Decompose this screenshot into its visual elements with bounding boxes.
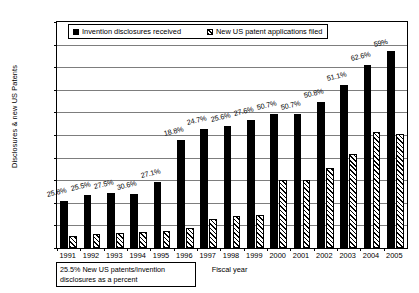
bar-group: 18.8%	[174, 22, 197, 248]
bar-invention-disclosures	[60, 201, 68, 248]
bar-invention-disclosures	[317, 102, 325, 248]
bar-invention-disclosures	[130, 194, 138, 248]
footnote-line-2: disclosures as a percent	[60, 275, 192, 285]
bar-group: 27.5%	[104, 22, 127, 248]
legend-item-disclosures: Invention disclosures received	[73, 27, 181, 36]
bar-group: 25.5%	[80, 22, 103, 248]
bar-group: 50.7%	[290, 22, 313, 248]
bar-patent-applications	[303, 180, 311, 248]
bar-invention-disclosures	[247, 120, 255, 248]
bar-invention-disclosures	[84, 195, 92, 248]
bar-group: 50.7%	[267, 22, 290, 248]
bar-patent-applications	[139, 232, 147, 248]
bar-patent-applications	[116, 233, 124, 248]
bar-series-container: 25.8%25.5%27.5%30.6%27.1%18.8%24.7%25.6%…	[57, 22, 407, 248]
chart-legend: Invention disclosures received New US pa…	[68, 24, 328, 39]
legend-swatch-solid-icon	[73, 29, 79, 35]
footnote-box: 25.5% New US patents/invention disclosur…	[56, 262, 196, 287]
bar-patent-applications	[396, 134, 404, 248]
bar-invention-disclosures	[154, 182, 162, 248]
plot-area: 0200040006000800010000120001400016000180…	[56, 21, 408, 249]
bar-group: 25.8%	[57, 22, 80, 248]
bar-percent-label: 25.8%	[46, 185, 67, 199]
bar-patent-applications	[93, 234, 101, 248]
bar-group: 25.6%	[220, 22, 243, 248]
bar-invention-disclosures	[200, 129, 208, 248]
bar-chart: Disclosures & new US Patents 02000400060…	[0, 0, 419, 293]
bar-invention-disclosures	[270, 114, 278, 248]
bar-invention-disclosures	[387, 51, 395, 248]
bar-group: 50.8%	[314, 22, 337, 248]
bar-patent-applications	[373, 132, 381, 248]
x-axis-tick-label: 2005	[374, 251, 414, 260]
bar-invention-disclosures	[340, 85, 348, 248]
bar-invention-disclosures	[364, 65, 372, 248]
legend-swatch-hatch-icon	[207, 29, 213, 35]
bar-group: 30.6%	[127, 22, 150, 248]
bar-patent-applications	[256, 215, 264, 248]
bar-group: 27.6%	[244, 22, 267, 248]
legend-label-patent-applications: New US patent applications filed	[216, 27, 322, 36]
bar-invention-disclosures	[177, 140, 185, 248]
bar-group: 62.6%	[360, 22, 383, 248]
footnote-line-1: 25.5% New US patents/invention	[60, 265, 192, 275]
bar-patent-applications	[209, 219, 217, 248]
bar-patent-applications	[163, 231, 171, 249]
bar-patent-applications	[279, 180, 287, 248]
legend-label-disclosures: Invention disclosures received	[82, 27, 181, 36]
bar-invention-disclosures	[224, 126, 232, 248]
y-axis-title: Disclosures & new US Patents	[10, 17, 19, 217]
bar-patent-applications	[69, 236, 77, 248]
bar-patent-applications	[233, 216, 241, 248]
bar-patent-applications	[349, 154, 357, 248]
legend-item-patent-applications: New US patent applications filed	[207, 27, 322, 36]
bar-patent-applications	[186, 228, 194, 248]
bar-group: 24.7%	[197, 22, 220, 248]
bar-patent-applications	[326, 168, 334, 248]
bar-invention-disclosures	[294, 114, 302, 248]
bar-group: 59%	[384, 22, 407, 248]
bar-invention-disclosures	[107, 193, 115, 248]
